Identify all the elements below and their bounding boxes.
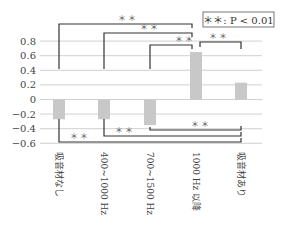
significance-bracket xyxy=(150,45,192,69)
significance-label: ＊＊ xyxy=(70,132,90,141)
y-tick-label: 0.4 xyxy=(20,65,36,76)
bar xyxy=(98,100,110,120)
legend-text: ＊＊: P < 0.01 xyxy=(203,15,273,26)
y-tick-label: 0.2 xyxy=(20,79,36,90)
significance-label: ＊＊ xyxy=(118,14,138,23)
x-tick-label: 吸音材あり xyxy=(236,152,247,197)
significance-label: ＊＊ xyxy=(115,126,135,135)
bar xyxy=(190,52,202,99)
y-tick-label: 0 xyxy=(30,94,36,105)
significance-label: ＊＊ xyxy=(191,120,211,129)
y-tick-label: −0.6 xyxy=(12,138,36,149)
x-axis-labels: 吸音材なし400~1000 Hz700~1500 Hz1000 Hz 以降吸音材… xyxy=(54,152,247,215)
gridlines xyxy=(40,41,262,143)
significance-bracket xyxy=(59,24,192,69)
legend: ＊＊: P < 0.01 xyxy=(203,12,274,27)
bar xyxy=(235,83,247,100)
significance-label: ＊＊ xyxy=(209,32,229,41)
y-tick-label: −0.4 xyxy=(12,123,36,134)
y-tick-label: 0.6 xyxy=(20,50,36,61)
y-tick-label: −0.2 xyxy=(12,109,36,120)
bar xyxy=(144,100,156,126)
significance-bracket xyxy=(200,42,241,49)
y-axis-ticks: 0.80.60.40.20−0.2−0.4−0.6 xyxy=(12,36,36,149)
x-tick-label: 400~1000 Hz xyxy=(99,152,109,215)
bar xyxy=(53,100,65,120)
x-tick-label: 吸音材なし xyxy=(54,152,65,197)
significance-label: ＊＊ xyxy=(140,23,160,32)
bar-chart: 0.80.60.40.20−0.2−0.4−0.6 ＊＊＊＊＊＊＊＊＊＊＊＊＊＊… xyxy=(0,0,283,228)
x-tick-label: 1000 Hz 以降 xyxy=(191,152,202,211)
x-tick-label: 700~1500 Hz xyxy=(145,152,155,215)
y-tick-label: 0.8 xyxy=(20,36,36,47)
significance-label: ＊＊ xyxy=(175,35,195,44)
